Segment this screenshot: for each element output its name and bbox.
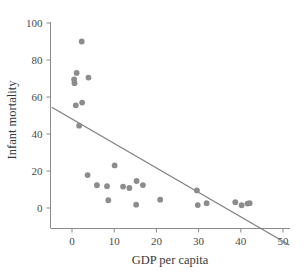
- scatter-point: [134, 178, 140, 184]
- y-tick-label: 100: [26, 17, 43, 29]
- x-tick-label: 30: [193, 235, 205, 247]
- data-points-group: [71, 39, 252, 209]
- scatter-point: [140, 182, 146, 188]
- scatter-point: [120, 184, 126, 190]
- scatter-point: [76, 123, 82, 129]
- scatter-point: [194, 188, 200, 194]
- scatter-point: [247, 200, 253, 206]
- scatter-point: [74, 70, 80, 76]
- scatter-point: [79, 39, 85, 45]
- x-tick-label: 0: [69, 235, 75, 247]
- scatter-point: [239, 202, 245, 208]
- x-axis-ticks: 01020304050: [69, 229, 289, 247]
- x-tick-label: 20: [151, 235, 163, 247]
- scatter-point: [232, 199, 238, 205]
- scatter-point: [133, 202, 139, 208]
- scatter-point: [104, 183, 110, 189]
- y-tick-label: 80: [32, 54, 44, 66]
- scatter-point: [204, 200, 210, 206]
- scatter-point: [72, 80, 78, 86]
- scatter-point: [79, 100, 85, 106]
- x-tick-label: 10: [109, 235, 121, 247]
- scatter-point: [73, 102, 79, 108]
- y-axis-ticks: 020406080100: [26, 17, 51, 214]
- plot-canvas: 020406080100 01020304050 GDP per capita …: [0, 0, 308, 275]
- x-axis-title: GDP per capita: [132, 253, 209, 267]
- scatter-point: [195, 202, 201, 208]
- y-tick-label: 40: [32, 128, 44, 140]
- axes-group: [51, 22, 291, 229]
- scatter-point: [94, 182, 100, 188]
- scatter-point: [112, 163, 118, 169]
- y-axis-title: Infant mortality: [5, 80, 19, 160]
- y-tick-label: 20: [32, 165, 44, 177]
- scatter-point: [105, 197, 111, 203]
- x-tick-label: 40: [235, 235, 247, 247]
- scatter-point: [86, 75, 92, 81]
- scatter-point: [85, 172, 91, 178]
- scatter-plot-figure: 020406080100 01020304050 GDP per capita …: [0, 0, 308, 275]
- scatter-point: [126, 185, 132, 191]
- y-tick-label: 0: [37, 202, 43, 214]
- y-tick-label: 60: [32, 91, 44, 103]
- x-tick-label: 50: [278, 235, 290, 247]
- scatter-point: [157, 197, 163, 203]
